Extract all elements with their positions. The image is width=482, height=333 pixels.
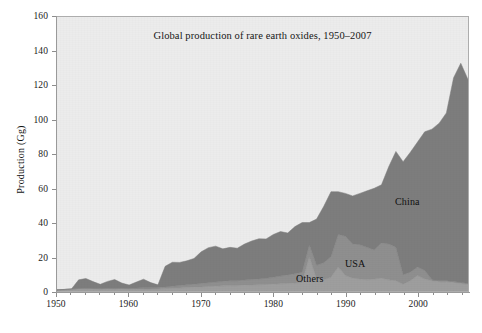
chart-title: Global production of rare earth oxides, … xyxy=(56,30,469,41)
x-minor-tick xyxy=(143,293,144,295)
series-label-usa: USA xyxy=(345,258,365,269)
y-axis-title: Production (Gg) xyxy=(15,90,26,230)
x-tick-label: 1990 xyxy=(336,299,355,309)
y-tick-label: 0 xyxy=(18,287,48,297)
x-minor-tick xyxy=(404,293,405,295)
x-minor-tick xyxy=(317,293,318,295)
x-minor-tick xyxy=(215,293,216,295)
x-tick-label: 1980 xyxy=(264,299,283,309)
y-tick-label: 160 xyxy=(18,11,48,21)
x-minor-tick xyxy=(99,293,100,295)
y-tick xyxy=(52,120,56,121)
x-minor-tick xyxy=(85,293,86,295)
x-minor-tick xyxy=(389,293,390,295)
x-minor-tick xyxy=(259,293,260,295)
series-label-china: China xyxy=(395,196,420,207)
plot-area xyxy=(56,16,469,292)
x-tick xyxy=(56,293,57,297)
y-tick-label: 120 xyxy=(18,80,48,90)
x-axis-line xyxy=(56,292,470,293)
x-minor-tick xyxy=(433,293,434,295)
y-tick xyxy=(52,85,56,86)
x-tick xyxy=(201,293,202,297)
x-tick xyxy=(346,293,347,297)
x-tick xyxy=(273,293,274,297)
x-minor-tick xyxy=(302,293,303,295)
x-tick xyxy=(418,293,419,297)
x-minor-tick xyxy=(186,293,187,295)
x-minor-tick xyxy=(447,293,448,295)
x-minor-tick xyxy=(462,293,463,295)
y-tick xyxy=(52,189,56,190)
chart-figure: 020406080100120140160 195019601970198019… xyxy=(0,0,482,333)
y-tick xyxy=(52,16,56,17)
series-label-others: Others xyxy=(296,273,324,284)
y-tick xyxy=(52,51,56,52)
x-tick-label: 1960 xyxy=(119,299,138,309)
x-minor-tick xyxy=(230,293,231,295)
x-minor-tick xyxy=(244,293,245,295)
x-minor-tick xyxy=(331,293,332,295)
x-minor-tick xyxy=(70,293,71,295)
x-minor-tick xyxy=(375,293,376,295)
y-tick-label: 140 xyxy=(18,46,48,56)
x-tick-label: 1950 xyxy=(46,299,65,309)
x-tick-label: 1970 xyxy=(191,299,210,309)
x-minor-tick xyxy=(114,293,115,295)
y-tick xyxy=(52,154,56,155)
x-minor-tick xyxy=(288,293,289,295)
x-tick-label: 2000 xyxy=(409,299,428,309)
stacked-area-svg xyxy=(57,17,468,291)
x-minor-tick xyxy=(360,293,361,295)
area-series-china xyxy=(57,63,468,290)
x-minor-tick xyxy=(172,293,173,295)
y-tick xyxy=(52,223,56,224)
y-axis-line xyxy=(56,16,57,293)
y-tick-label: 20 xyxy=(18,253,48,263)
y-tick xyxy=(52,258,56,259)
x-tick xyxy=(128,293,129,297)
x-minor-tick xyxy=(157,293,158,295)
